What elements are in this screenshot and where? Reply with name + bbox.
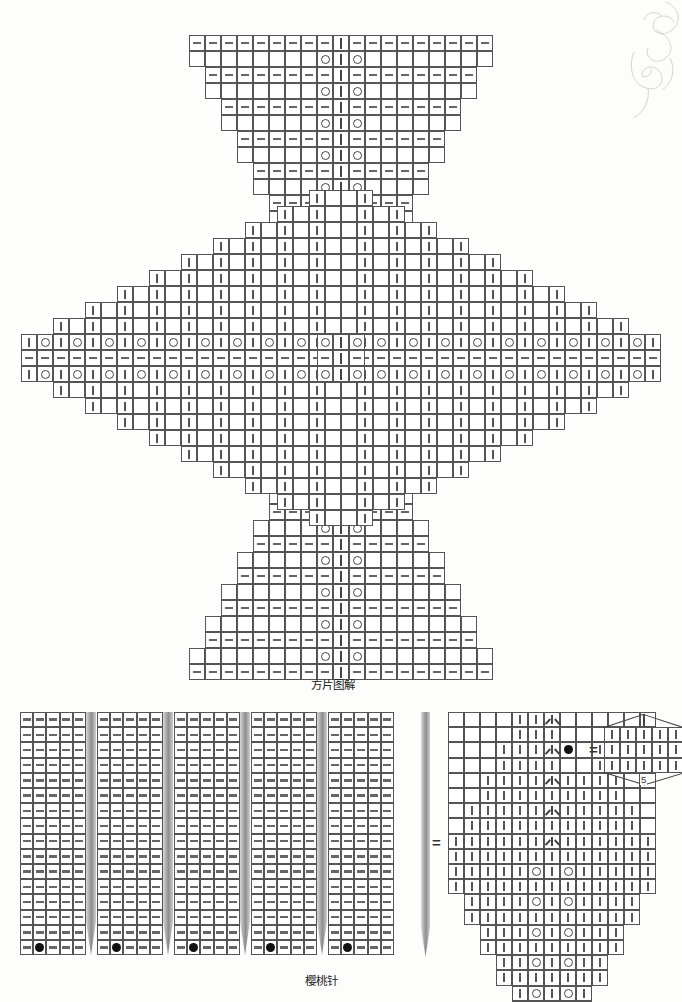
chart-cell: [277, 879, 290, 894]
chart-cell: [304, 803, 317, 818]
knit-symbol: [567, 776, 570, 785]
chart-cell: [291, 803, 304, 818]
purl-symbol: [306, 764, 314, 767]
chart-cell: [597, 366, 613, 382]
chart-cell: [544, 818, 560, 833]
knit-symbol: [599, 776, 602, 785]
chart-cell: [512, 818, 528, 833]
purl-symbol: [433, 575, 441, 578]
purl-symbol: [225, 671, 233, 674]
purl-symbol: [177, 855, 185, 858]
chart-cell: [448, 803, 464, 818]
chart-cell: [33, 712, 46, 727]
chart-cell: [293, 366, 309, 382]
purl-symbol: [267, 886, 275, 889]
knit-symbol: [567, 913, 570, 922]
chart-cell: [227, 940, 240, 955]
knit-symbol: [551, 867, 554, 876]
chart-cell: [237, 664, 253, 680]
chart-cell: [560, 955, 576, 970]
chart-cell: [214, 727, 227, 742]
chart-cell: [20, 742, 33, 757]
purl-symbol: [370, 916, 378, 919]
purl-symbol: [49, 901, 57, 904]
decrease-symbol: [547, 715, 558, 724]
chart-cell: [277, 849, 290, 864]
purl-symbol: [216, 886, 224, 889]
purl-symbol: [36, 931, 44, 934]
chart-cell: [368, 849, 381, 864]
chart-cell: [60, 742, 73, 757]
chart-cell: [309, 382, 325, 398]
knit-symbol: [396, 434, 399, 443]
knit-symbol: [364, 386, 367, 395]
purl-symbol: [185, 357, 193, 360]
chart-cell: [150, 834, 163, 849]
chart-cell: [640, 834, 656, 849]
purl-symbol: [209, 639, 217, 642]
chart-cell: [33, 727, 46, 742]
purl-symbol: [62, 931, 70, 934]
chart-cell: [304, 940, 317, 955]
knit-symbol: [615, 913, 618, 922]
chart-cell: [453, 446, 469, 462]
knit-symbol: [252, 338, 255, 347]
chart-cell: [277, 462, 293, 478]
chart-cell: [200, 727, 213, 742]
purl-symbol: [62, 840, 70, 843]
chart-cell: [197, 350, 213, 366]
purl-symbol: [369, 639, 377, 642]
purl-symbol: [425, 357, 433, 360]
knit-symbol: [599, 973, 602, 982]
purl-symbol: [139, 855, 147, 858]
purl-symbol: [289, 639, 297, 642]
purl-symbol: [190, 749, 198, 752]
chart-cell: [640, 849, 656, 864]
chart-cell: [469, 382, 485, 398]
yarn-over-symbol: [564, 897, 573, 906]
purl-symbol: [126, 794, 134, 797]
chart-cell: [174, 940, 187, 955]
chart-cell: [229, 446, 245, 462]
chart-cell: [448, 758, 464, 773]
chart-cell: [645, 350, 661, 366]
chart-cell: [200, 803, 213, 818]
knit-symbol: [428, 338, 431, 347]
knit-symbol: [519, 761, 522, 770]
chart-cell: [137, 788, 150, 803]
chart-cell: [187, 742, 200, 757]
chart-cell: [496, 758, 512, 773]
chart-cell: [429, 648, 445, 664]
purl-symbol: [344, 870, 352, 873]
chart-cell: [133, 398, 149, 414]
chart-cell: [429, 584, 445, 600]
knit-symbol: [428, 434, 431, 443]
chart-cell: [528, 758, 544, 773]
chart-cell: [227, 803, 240, 818]
chart-cell: [123, 849, 136, 864]
purl-symbol: [344, 840, 352, 843]
purl-symbol: [370, 901, 378, 904]
chart-cell: [592, 788, 608, 803]
purl-symbol: [370, 840, 378, 843]
chart-cell: [381, 536, 397, 552]
chart-cell: [181, 334, 197, 350]
knit-symbol: [487, 776, 490, 785]
chart-cell: [333, 536, 349, 552]
purl-symbol: [305, 671, 313, 674]
purl-symbol: [344, 779, 352, 782]
chart-cell: [251, 910, 264, 925]
chart-cell: [251, 894, 264, 909]
chart-cell: [581, 382, 597, 398]
purl-symbol: [139, 794, 147, 797]
chart-cell: [304, 879, 317, 894]
knit-symbol: [487, 867, 490, 876]
chart-cell: [20, 727, 33, 742]
chart-cell: [576, 758, 592, 773]
chart-cell: [101, 302, 117, 318]
purl-symbol: [36, 794, 44, 797]
purl-symbol: [289, 607, 297, 610]
purl-symbol: [216, 931, 224, 934]
chart-cell: [110, 712, 123, 727]
chart-cell: [21, 334, 37, 350]
